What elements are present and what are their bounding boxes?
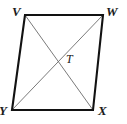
- intersection-label-t: T: [66, 53, 73, 65]
- vertex-label-y: Y: [0, 104, 7, 117]
- geometry-figure: V W X Y T: [0, 0, 127, 124]
- vertex-label-x: X: [98, 104, 107, 117]
- vertex-label-v: V: [12, 5, 21, 18]
- vertex-label-w: W: [106, 5, 118, 18]
